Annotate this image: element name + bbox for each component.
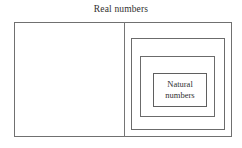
set-box-natural-numbers: Natural numbers <box>153 73 207 107</box>
natural-numbers-label-line-1: Natural <box>167 79 193 90</box>
set-diagram-canvas: Real numbers Natural numbers <box>0 0 242 148</box>
page-title: Real numbers <box>0 3 242 15</box>
vertical-divider-line <box>124 22 125 137</box>
natural-numbers-label-line-2: numbers <box>165 90 194 101</box>
